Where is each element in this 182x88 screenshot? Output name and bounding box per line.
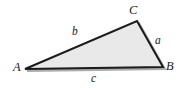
triangle-figure: A B C a b c (0, 0, 182, 88)
vertex-label-c: C (129, 4, 137, 17)
side-label-a: a (155, 35, 161, 47)
vertex-label-b: B (166, 60, 174, 73)
side-label-b: b (72, 26, 78, 38)
vertex-label-a: A (13, 61, 21, 74)
side-label-c: c (91, 73, 96, 85)
